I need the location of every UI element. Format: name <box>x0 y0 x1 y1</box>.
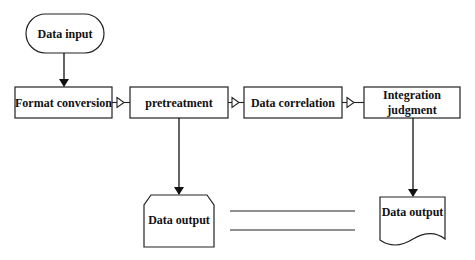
pretreatment-label: pretreatment <box>130 87 228 118</box>
connector-correlation-to-integration <box>342 98 364 108</box>
connector-format-to-pretreatment <box>112 98 130 108</box>
format-conversion-label: Format conversion <box>15 87 112 118</box>
data-output-left-label: Data output <box>144 205 214 235</box>
data-correlation-label: Data correlation <box>244 87 342 118</box>
integration-judgment-label: Integration judgment <box>380 86 444 119</box>
data-output-right-label: Data output <box>380 199 445 225</box>
connector-pretreatment-to-correlation <box>228 98 244 108</box>
data-input-label: Data input <box>26 14 104 53</box>
